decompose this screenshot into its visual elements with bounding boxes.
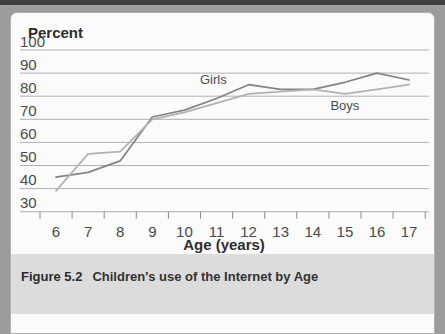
figure-caption-text: Children's use of the Internet by Age [92, 269, 318, 284]
series-label-boys: Boys [330, 98, 359, 113]
y-tick-label: 40 [20, 171, 37, 188]
series-line-girls [56, 73, 409, 177]
series-label-girls: Girls [200, 72, 227, 87]
y-tick-label: 80 [20, 79, 37, 96]
y-tick-label: 70 [20, 102, 37, 119]
figure-number: Figure 5.2 [21, 269, 82, 284]
y-axis-title: Percent [28, 24, 83, 41]
top-border-bar [0, 0, 445, 5]
x-tick-label: 6 [52, 223, 60, 240]
x-tick-label: 14 [304, 223, 321, 240]
x-axis-title: Age (years) [183, 236, 265, 253]
x-tick-label: 13 [272, 223, 289, 240]
line-chart: 1009080706050403067891011121314151617Gir… [11, 13, 434, 254]
x-tick-label: 16 [369, 223, 386, 240]
x-tick-label: 8 [116, 223, 124, 240]
x-tick-label: 7 [84, 223, 92, 240]
chart-panel: 1009080706050403067891011121314151617Gir… [10, 12, 435, 334]
y-tick-label: 30 [20, 194, 37, 211]
x-tick-label: 9 [148, 223, 156, 240]
x-tick-label: 15 [337, 223, 354, 240]
figure-caption: Figure 5.2Children's use of the Internet… [11, 254, 434, 314]
x-tick-label: 17 [401, 223, 418, 240]
y-tick-label: 60 [20, 125, 37, 142]
y-tick-label: 90 [20, 56, 37, 73]
y-tick-label: 50 [20, 148, 37, 165]
